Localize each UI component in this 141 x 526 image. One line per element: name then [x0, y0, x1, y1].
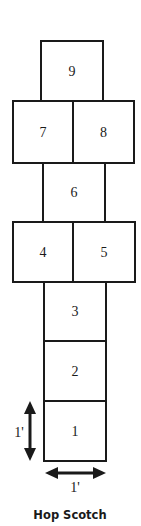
width-dimension: 1' [45, 467, 106, 495]
square-1: 1 [44, 401, 106, 461]
diagram-title: Hop Scotch [33, 508, 106, 522]
square-9: 9 [41, 41, 103, 101]
arrow-down-icon [24, 448, 36, 461]
arrow-right-icon [93, 467, 106, 479]
square-number: 8 [100, 125, 107, 140]
square-2: 2 [44, 341, 106, 401]
square-3: 3 [44, 282, 106, 341]
square-number: 1 [72, 424, 79, 439]
square-number: 7 [40, 125, 47, 140]
square-7: 7 [13, 101, 73, 163]
height-dimension: 1' [14, 401, 36, 461]
square-number: 9 [69, 64, 76, 79]
square-number: 5 [101, 245, 108, 260]
square-4: 4 [13, 222, 73, 282]
hopscotch-squares: 123456789 [13, 41, 135, 461]
arrow-up-icon [24, 401, 36, 414]
square-5: 5 [73, 222, 135, 282]
square-number: 6 [71, 185, 78, 200]
arrow-left-icon [45, 467, 58, 479]
width-label: 1' [70, 480, 80, 495]
height-label: 1' [14, 425, 24, 440]
square-8: 8 [73, 101, 134, 163]
square-number: 2 [72, 364, 79, 379]
hopscotch-diagram: 123456789 1' 1' Hop Scotch [0, 0, 141, 526]
square-number: 3 [72, 304, 79, 319]
square-number: 4 [40, 245, 47, 260]
square-6: 6 [43, 163, 105, 222]
